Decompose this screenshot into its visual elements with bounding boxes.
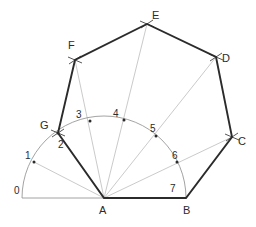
- arc-division-dots-layer: [33, 119, 179, 164]
- arc-division-label-7: 7: [170, 184, 176, 194]
- arc-division-label-6: 6: [172, 151, 178, 161]
- arc-division-dot-5: [155, 135, 158, 138]
- arc-division-label-0: 0: [14, 186, 20, 196]
- arc-division-label-5: 5: [150, 124, 156, 134]
- radial-construction-line-5: [104, 57, 216, 198]
- radial-construction-line-4: [104, 24, 147, 198]
- heptagon-construction-svg: [0, 0, 256, 227]
- arc-division-dot-1: [33, 161, 36, 164]
- vertex-label-A: A: [99, 205, 106, 216]
- vertex-label-D: D: [222, 53, 230, 64]
- vertex-label-F: F: [68, 40, 75, 51]
- radial-construction-line-1: [34, 162, 104, 198]
- diagram-canvas: 01234567ABCDEFG: [0, 0, 256, 227]
- heptagon-outline-layer: [58, 24, 232, 198]
- arc-division-label-3: 3: [76, 110, 82, 120]
- heptagon-outline: [58, 24, 232, 198]
- arc-division-label-4: 4: [113, 109, 119, 119]
- vertex-label-C: C: [238, 136, 246, 147]
- vertex-label-E: E: [152, 10, 159, 21]
- arc-division-label-2: 2: [58, 140, 64, 150]
- vertex-label-B: B: [183, 205, 190, 216]
- arc-division-dot-4: [123, 119, 126, 122]
- arc-division-dot-3: [89, 120, 92, 123]
- arc-division-label-1: 1: [25, 151, 31, 161]
- vertex-label-G: G: [40, 120, 49, 131]
- arc-division-dot-2: [57, 132, 60, 135]
